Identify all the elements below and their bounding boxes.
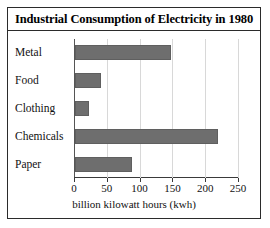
bar-chemicals	[75, 129, 218, 144]
bar-metal	[75, 45, 171, 60]
bar-clothing	[75, 101, 89, 116]
category-label-paper: Paper	[15, 157, 41, 172]
gridline	[205, 39, 206, 178]
chart-title-band: Industrial Consumption of Electricity in…	[8, 8, 260, 31]
x-tick-label: 50	[101, 182, 112, 194]
category-label-metal: Metal	[15, 45, 42, 60]
bar-food	[75, 73, 101, 88]
gridline	[172, 39, 173, 178]
category-label-clothing: Clothing	[15, 101, 55, 116]
y-axis-category-labels: MetalFoodClothingChemicalsPaper	[8, 39, 72, 178]
x-tick-label: 200	[197, 182, 214, 194]
x-tick-label: 0	[71, 182, 77, 194]
x-tick-label: 150	[164, 182, 181, 194]
x-tick-label: 100	[131, 182, 148, 194]
category-label-chemicals: Chemicals	[15, 129, 64, 144]
category-label-food: Food	[15, 73, 39, 88]
x-tick-label: 250	[230, 182, 247, 194]
gridline	[238, 39, 239, 178]
chart-body: MetalFoodClothingChemicalsPaper 05010015…	[8, 31, 260, 220]
x-axis-line	[74, 177, 238, 178]
x-axis-label: billion kilowatt hours (kwh)	[8, 198, 260, 210]
bar-paper	[75, 157, 132, 172]
plot-area	[74, 39, 238, 178]
page-title: Industrial Consumption of Electricity in…	[15, 12, 253, 27]
chart-figure: Industrial Consumption of Electricity in…	[7, 7, 261, 219]
